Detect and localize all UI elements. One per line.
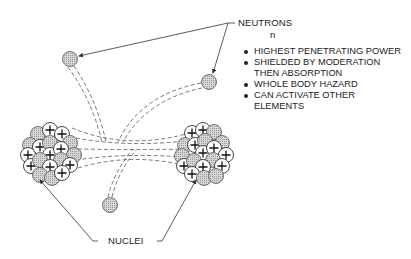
neutron-symbol: n [270,29,275,40]
free-neutron-icon [63,52,78,67]
property-item: HIGHEST PENETRATING POWER [243,46,401,57]
property-item-continuation: THEN ABSORPTION [243,68,401,79]
left-nucleus-icon [21,123,82,186]
neutron-tracks [68,66,202,197]
property-item: WHOLE BODY HAZARD [243,79,401,90]
property-item: SHIELDED BY MODERATION [243,57,401,68]
right-nucleus-icon [175,123,234,186]
neutron-properties-list: HIGHEST PENETRATING POWER SHIELDED BY MO… [243,46,401,112]
property-item-continuation: ELEMENTS [243,101,401,112]
free-neutron-icon [103,198,118,213]
neutron-diagram [0,0,411,259]
neutrons-label: NEUTRONS [238,17,292,28]
nuclei-label: NUCLEI [108,235,143,246]
free-neutron-icon [202,75,217,90]
property-item: CAN ACTIVATE OTHER [243,90,401,101]
